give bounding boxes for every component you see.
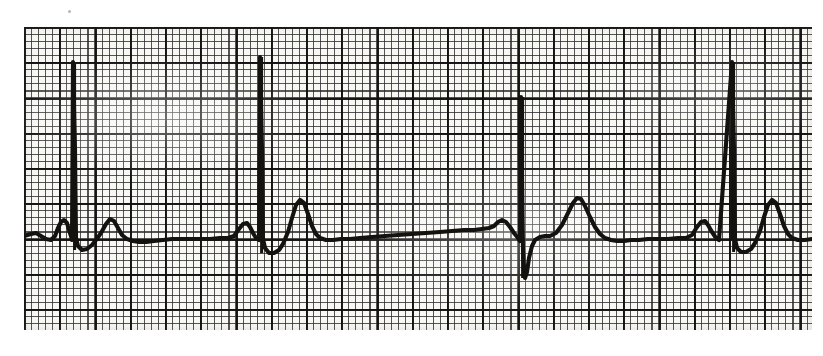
ecg-grid-bold bbox=[24, 27, 812, 330]
ecg-strip-root: ECG Rhythm Strip bbox=[0, 0, 823, 356]
ecg-graph-paper bbox=[24, 27, 812, 330]
scan-speck bbox=[68, 10, 71, 13]
